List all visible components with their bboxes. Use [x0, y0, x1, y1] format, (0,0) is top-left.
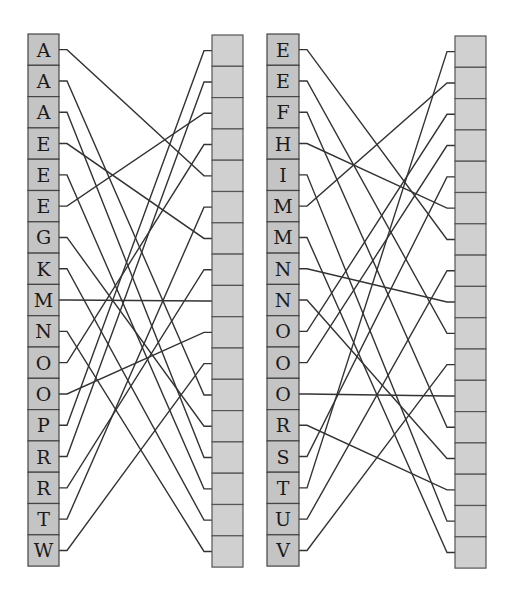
cell-label: M: [34, 289, 53, 311]
cell-label: R: [276, 414, 291, 436]
connection-line: [59, 145, 212, 363]
connection-line: [59, 144, 212, 239]
connection-line: [299, 52, 455, 488]
cell-label: E: [37, 133, 51, 155]
right-cell: [212, 98, 243, 129]
cell-label: W: [34, 539, 54, 561]
right-column: [212, 35, 243, 567]
right-cell: [455, 349, 486, 380]
cell-label: O: [275, 352, 291, 374]
right-cell: [455, 130, 486, 161]
right-cell: [455, 318, 486, 349]
cell-label: T: [277, 477, 290, 499]
connection-line: [59, 269, 212, 520]
right-cell: [212, 379, 243, 410]
connection-line: [59, 82, 212, 457]
cell-label: A: [36, 70, 51, 92]
right-cell: [212, 192, 243, 223]
left-column: EEFHIMMNNOOORSTUV: [267, 34, 299, 566]
matching-diagram: AAAEEEGKMNOOPRRTW EEFHIMMNNOOORSTUV: [0, 0, 511, 597]
cell-label: R: [36, 446, 51, 468]
cell-label: E: [37, 164, 51, 186]
connection-line: [59, 113, 212, 206]
right-cell: [212, 442, 243, 473]
right-cell: [212, 129, 243, 160]
right-cell: [212, 35, 243, 66]
left-column: AAAEEEGKMNOOPRRTW: [28, 34, 59, 566]
right-cell: [212, 536, 243, 567]
connection-line: [59, 51, 212, 426]
edges-group: [59, 50, 212, 552]
cell-label: I: [279, 164, 287, 186]
cell-label: R: [36, 477, 51, 499]
panel-right: EEFHIMMNNOOORSTUV: [267, 34, 486, 568]
right-cell: [212, 223, 243, 254]
right-cell: [455, 224, 486, 255]
right-cell: [455, 506, 486, 537]
cell-label: E: [276, 39, 290, 61]
edges-group: [299, 50, 455, 553]
cell-label: H: [275, 133, 292, 155]
cell-label: V: [275, 539, 290, 561]
cell-label: O: [275, 383, 291, 405]
right-cell: [212, 348, 243, 379]
cell-label: M: [273, 226, 292, 248]
cell-label: N: [275, 289, 292, 311]
connection-line: [59, 50, 212, 176]
connection-line: [59, 364, 212, 551]
right-cell: [455, 537, 486, 568]
right-cell: [212, 160, 243, 191]
cell-label: U: [275, 508, 291, 530]
cell-label: N: [35, 320, 52, 342]
connection-line: [59, 237, 212, 426]
connection-line: [299, 144, 455, 209]
right-cell: [455, 380, 486, 411]
right-cell: [212, 254, 243, 285]
right-cell: [212, 411, 243, 442]
connection-line: [299, 146, 455, 363]
right-cell: [455, 286, 486, 317]
cell-label: T: [37, 508, 50, 530]
cell-label: P: [37, 414, 50, 436]
right-cell: [212, 66, 243, 97]
cell-label: O: [36, 352, 52, 374]
cell-label: M: [273, 195, 292, 217]
connection-line: [299, 300, 455, 459]
cell-label: A: [36, 39, 51, 61]
right-cell: [455, 67, 486, 98]
cell-label: E: [37, 195, 51, 217]
connection-line: [299, 175, 455, 521]
right-cell: [455, 161, 486, 192]
right-cell: [212, 317, 243, 348]
cell-label: F: [276, 101, 289, 123]
right-cell: [212, 285, 243, 316]
cell-label: G: [36, 226, 51, 248]
panel-left: AAAEEEGKMNOOPRRTW: [28, 34, 243, 567]
cell-label: O: [275, 320, 291, 342]
right-cell: [455, 193, 486, 224]
cell-label: O: [36, 383, 52, 405]
cell-label: A: [36, 101, 51, 123]
right-cell: [455, 99, 486, 130]
right-cell: [455, 443, 486, 474]
right-cell: [455, 255, 486, 286]
right-cell: [212, 473, 243, 504]
right-cell: [455, 36, 486, 67]
right-column: [455, 36, 486, 568]
right-cell: [455, 412, 486, 443]
right-cell: [455, 474, 486, 505]
cell-label: S: [276, 446, 289, 468]
cell-label: K: [36, 258, 51, 280]
right-cell: [212, 505, 243, 536]
cell-label: E: [276, 70, 290, 92]
connection-line: [59, 300, 212, 301]
cell-label: N: [275, 258, 292, 280]
